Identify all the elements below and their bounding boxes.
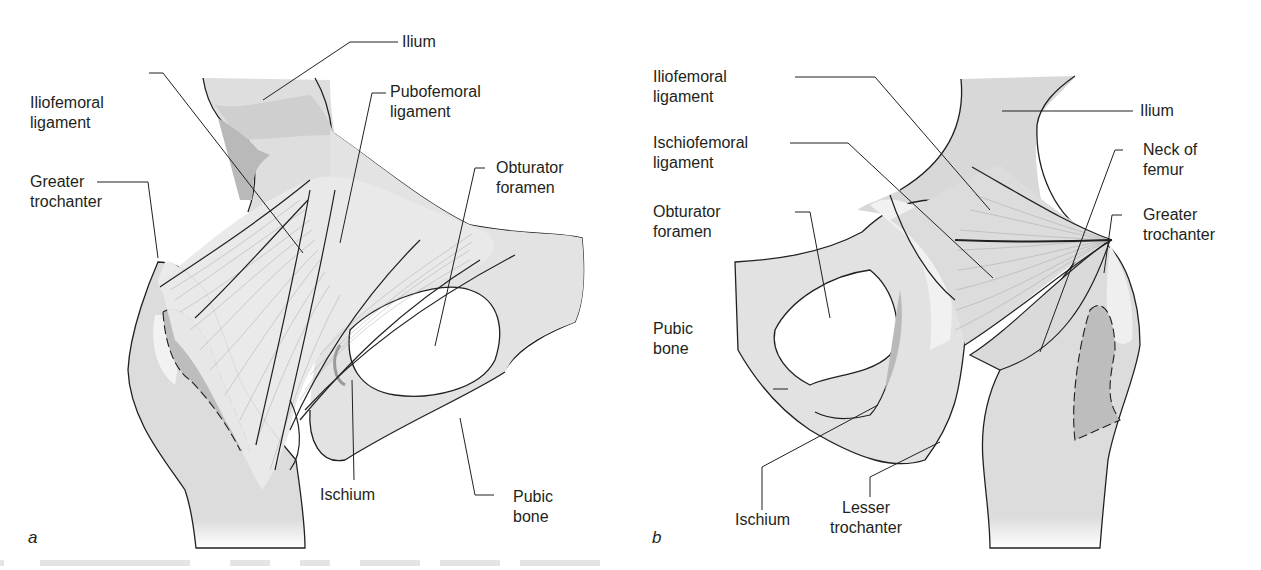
label-greater-trochanter-a: Greater trochanter: [30, 172, 102, 212]
label-iliofemoral-ligament-b: Iliofemoral ligament: [653, 67, 727, 107]
label-iliofemoral-ligament-a: Iliofemoral ligament: [30, 93, 104, 133]
label-ilium-b: Ilium: [1140, 101, 1174, 121]
panel-letter-b: b: [652, 528, 661, 548]
label-ischium-b: Ischium: [735, 510, 790, 530]
label-pubofemoral-ligament-a: Pubofemoral ligament: [390, 82, 481, 122]
label-lesser-trochanter-b: Lesser trochanter: [830, 498, 902, 538]
hip-joint-anatomy-diagram: [0, 0, 1261, 570]
label-obturator-foramen-b: Obturator foramen: [653, 202, 721, 242]
label-obturator-foramen-a: Obturator foramen: [496, 158, 564, 198]
label-pubic-bone-a: Pubic bone: [513, 487, 553, 527]
panel-a-illustration: [97, 42, 584, 548]
label-neck-of-femur-b: Neck of femur: [1143, 140, 1197, 180]
label-pubic-bone-b: Pubic bone: [653, 319, 693, 359]
label-ischiofemoral-ligament-b: Ischiofemoral ligament: [653, 133, 748, 173]
label-ischium-a: Ischium: [320, 485, 375, 505]
caption-cutoff: [0, 560, 1261, 570]
panel-b-illustration: [735, 76, 1140, 548]
label-greater-trochanter-b: Greater trochanter: [1143, 205, 1215, 245]
panel-letter-a: a: [28, 528, 37, 548]
label-ilium-a: Ilium: [402, 32, 436, 52]
